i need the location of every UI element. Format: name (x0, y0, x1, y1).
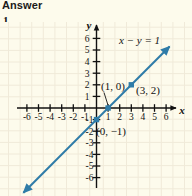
point-marker-0-neg1 (94, 117, 99, 122)
x-tick-label: -3 (58, 112, 66, 122)
point-label-3-2: (3, 2) (136, 84, 160, 97)
x-tick-label: -5 (35, 112, 43, 122)
graph-svg: -6 -5 -4 -3 -2 -1 1 2 3 4 5 6 6 5 4 3 2 … (0, 22, 192, 196)
x-tick-label: 5 (152, 112, 157, 122)
y-tick-label: -5 (86, 161, 94, 171)
point-marker-3-2 (129, 82, 134, 87)
x-tick-label: -6 (23, 112, 31, 122)
y-tick-label: 1 (85, 92, 90, 102)
y-tick-label: 5 (85, 45, 90, 55)
point-marker-1-0 (105, 105, 110, 110)
y-tick-label: 6 (85, 34, 90, 44)
x-tick-label: 6 (164, 112, 169, 122)
answer-figure: Answer 1. (0, 0, 192, 196)
x-tick-label: 4 (141, 112, 146, 122)
y-axis-label: y (85, 22, 92, 31)
y-tick-label: -6 (86, 173, 94, 183)
answer-header: Answer (2, 0, 42, 11)
equation-label: x − y = 1 (118, 34, 160, 46)
x-tick-label: -4 (46, 112, 54, 122)
x-tick-label: 1 (106, 112, 111, 122)
x-axis-label: x (178, 104, 185, 116)
y-tick-label: -4 (86, 150, 94, 160)
y-tick-label: 4 (85, 57, 90, 67)
y-tick-label: -3 (86, 138, 94, 148)
coordinate-plane: -6 -5 -4 -3 -2 -1 1 2 3 4 5 6 6 5 4 3 2 … (0, 22, 192, 196)
point-label-0-neg1: (0, −1) (96, 125, 126, 138)
point-label-1-0: (1, 0) (101, 80, 125, 93)
x-tick-label: 3 (129, 112, 134, 122)
x-tick-label: 2 (117, 112, 122, 122)
x-tick-label: -2 (69, 112, 77, 122)
y-tick-label: 3 (85, 69, 90, 79)
y-tick-label: 2 (85, 80, 90, 90)
